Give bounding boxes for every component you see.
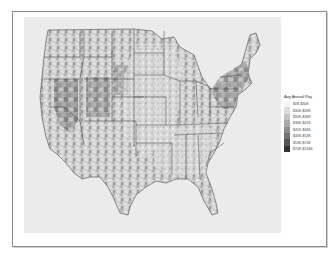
legend-label: $0K-$30K: [293, 102, 309, 106]
legend-item: $74K-$136K: [284, 146, 326, 152]
legend-label: $30K-$33K: [293, 109, 311, 113]
us-county-choropleth-map: [24, 17, 281, 233]
legend-label: $74K-$136K: [293, 147, 313, 151]
legend-label: $41K-$46K: [293, 128, 311, 132]
legend-swatch: [284, 146, 290, 152]
legend-label: $46K-$53K: [293, 134, 311, 138]
legend-label: $33K-$36K: [293, 115, 311, 119]
legend-label: $53K-$74K: [293, 141, 311, 145]
legend-label: $36K-$41K: [293, 121, 311, 125]
legend-title: Avg Annual Pay: [284, 94, 326, 99]
legend: Avg Annual Pay $0K-$30K $30K-$33K $33K-$…: [284, 94, 326, 152]
